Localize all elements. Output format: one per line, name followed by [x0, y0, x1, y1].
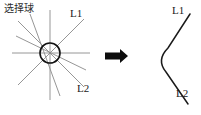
- arrow-group: [105, 49, 128, 63]
- ray-diagonal-l2: [18, 21, 84, 87]
- fillet-diagram-figure: 选择球 L1 L2 L1 L2: [0, 0, 201, 115]
- left-panel-group: 选择球 L1 L2: [4, 2, 90, 100]
- transform-arrow-icon: [105, 49, 128, 63]
- left-label-l2: L2: [77, 82, 89, 94]
- right-label-l1: L1: [172, 4, 184, 16]
- ray-diagonal-l1: [18, 19, 84, 85]
- diagram-canvas: 选择球 L1 L2 L1 L2: [0, 0, 201, 115]
- left-label-l1: L1: [70, 7, 82, 19]
- right-label-l2: L2: [176, 87, 188, 99]
- selection-ball-caption: 选择球: [4, 2, 34, 14]
- right-panel-group: L1 L2: [161, 4, 190, 104]
